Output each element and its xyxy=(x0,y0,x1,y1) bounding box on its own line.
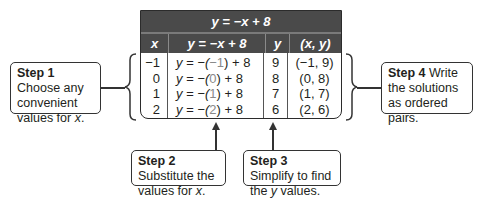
step2-connector xyxy=(215,129,217,151)
cell-equation: y = −(−1) + 8 xyxy=(176,55,263,70)
cell-x: −1 xyxy=(145,55,160,70)
values-table: y = −x + 8 x y = −x + 8 y (x, y) −1 0 1 … xyxy=(140,10,342,119)
cell-pair: (2, 6) xyxy=(299,102,329,117)
cell-x: 2 xyxy=(153,102,160,117)
step3-connector xyxy=(272,129,274,151)
cell-pair: (−1, 9) xyxy=(296,55,334,70)
table-body: −1 0 1 2 y = −(−1) + 8 y = −(0) + 8 y = … xyxy=(141,53,341,119)
step2-callout: Step 2 Substitute the values for x. xyxy=(131,150,226,186)
step1-connector xyxy=(100,87,125,89)
arrow-up-icon xyxy=(212,122,220,130)
step4-callout: Step 4 Write the solutions as ordered pa… xyxy=(381,62,473,114)
cell-equation: y = −(1) + 8 xyxy=(176,86,263,101)
cell-y: 9 xyxy=(272,55,279,70)
header-equation: y = −x + 8 xyxy=(169,34,266,53)
cell-equation: y = −(2) + 8 xyxy=(176,102,263,117)
right-brace-icon xyxy=(344,52,358,122)
header-pair: (x, y) xyxy=(290,34,341,53)
table-header-row: x y = −x + 8 y (x, y) xyxy=(141,34,341,53)
cell-y: 7 xyxy=(272,86,279,101)
cell-y: 6 xyxy=(272,102,279,117)
step4-connector xyxy=(357,87,382,89)
column-x: −1 0 1 2 xyxy=(141,53,168,119)
cell-x: 1 xyxy=(153,86,160,101)
arrow-up-icon xyxy=(269,122,277,130)
cell-x: 0 xyxy=(153,71,160,86)
left-brace-icon xyxy=(124,52,138,122)
table-title: y = −x + 8 xyxy=(141,11,341,34)
header-y: y xyxy=(266,34,290,53)
step3-callout: Step 3 Simplify to find the y values. xyxy=(243,150,341,186)
step1-callout: Step 1 Choose any convenient values for … xyxy=(10,62,101,114)
column-equation: y = −(−1) + 8 y = −(0) + 8 y = −(1) + 8 … xyxy=(168,53,264,119)
header-x: x xyxy=(141,34,169,53)
cell-pair: (1, 7) xyxy=(299,86,329,101)
cell-y: 8 xyxy=(272,71,279,86)
column-pair: (−1, 9) (0, 8) (1, 7) (2, 6) xyxy=(288,53,341,119)
cell-equation: y = −(0) + 8 xyxy=(176,71,263,86)
cell-pair: (0, 8) xyxy=(299,71,329,86)
column-y: 9 8 7 6 xyxy=(264,53,288,119)
